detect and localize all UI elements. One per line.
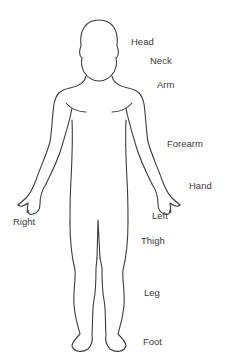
- label-arm: Arm: [157, 80, 174, 90]
- right-arm-inner: [46, 108, 72, 184]
- right-pectoral-line: [66, 103, 86, 112]
- label-leg: Leg: [144, 288, 160, 298]
- label-neck: Neck: [150, 56, 172, 66]
- label-thigh: Thigh: [141, 236, 165, 246]
- left-torso-side: [126, 120, 128, 222]
- label-hand: Hand: [189, 181, 212, 191]
- label-forearm: Forearm: [167, 139, 203, 149]
- label-right: Right: [13, 217, 35, 227]
- right-torso-side: [70, 120, 72, 222]
- label-head: Head: [131, 37, 154, 47]
- left-leg-outer: [100, 222, 128, 351]
- head-outline: [80, 20, 119, 81]
- label-foot: Foot: [143, 337, 162, 347]
- right-leg-outer: [70, 222, 97, 351]
- body-diagram: Head Neck Arm Forearm Hand Right Left Th…: [0, 0, 227, 360]
- crotch-line: [97, 220, 100, 258]
- left-pectoral-line: [112, 103, 132, 112]
- left-arm-inner: [126, 108, 152, 184]
- right-shoulder-arm-outer: [18, 76, 86, 205]
- label-left: Left: [152, 211, 168, 221]
